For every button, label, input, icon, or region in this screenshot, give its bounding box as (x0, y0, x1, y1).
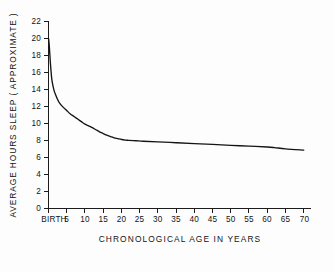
x-tick-label: 10 (80, 215, 90, 224)
y-tick-label: 16 (31, 68, 41, 77)
x-tick-label: 65 (281, 215, 291, 224)
y-tick-label: 22 (31, 17, 41, 26)
x-tick-label: 30 (153, 215, 163, 224)
x-tick-label-birth: BIRTH (41, 215, 66, 224)
x-tick-label: 50 (226, 215, 236, 224)
x-tick-label: 45 (208, 215, 218, 224)
y-tick-label: 12 (31, 102, 41, 111)
y-tick-label: 6 (36, 153, 41, 162)
y-tick-label: 10 (31, 119, 41, 128)
x-tick-label: 35 (171, 215, 181, 224)
x-tick-label: 25 (135, 215, 145, 224)
x-tick-label: 20 (117, 215, 127, 224)
x-tick-label: 15 (98, 215, 108, 224)
x-axis-title: CHRONOLOGICAL AGE IN YEARS (99, 234, 262, 244)
x-axis-tick-labels: BIRTH 5 10 15 20 25 30 35 40 45 50 55 60… (41, 215, 309, 224)
y-axis-title: AVERAGE HOURS SLEEP ( APPROXIMATE ) (8, 12, 18, 217)
y-tick-label: 20 (31, 34, 41, 43)
chart-figure: 0 2 4 6 8 10 12 14 16 18 20 22 (0, 0, 334, 272)
y-tick-label: 4 (36, 170, 41, 179)
x-tick-label: 70 (300, 215, 310, 224)
y-tick-label: 0 (36, 204, 41, 213)
y-tick-label: 14 (31, 85, 41, 94)
figure-background (0, 0, 334, 272)
x-tick-label: 40 (190, 215, 200, 224)
sleep-vs-age-line-chart: 0 2 4 6 8 10 12 14 16 18 20 22 (0, 0, 334, 272)
y-tick-label: 8 (36, 136, 41, 145)
y-tick-label: 18 (31, 51, 41, 60)
y-tick-label: 2 (36, 187, 41, 196)
x-tick-label: 60 (262, 215, 272, 224)
x-tick-label: 55 (244, 215, 254, 224)
x-tick-label: 5 (64, 215, 69, 224)
